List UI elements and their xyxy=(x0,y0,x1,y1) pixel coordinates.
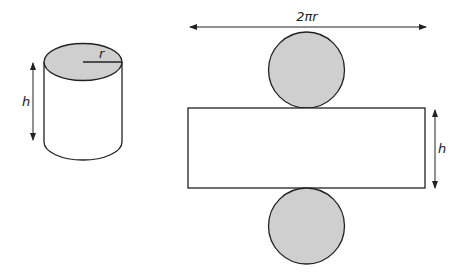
cylinder-net-diagram: r h 2πr h xyxy=(0,0,462,273)
cylinder: r h xyxy=(22,44,122,160)
circumference-label: 2πr xyxy=(296,9,319,24)
net-bottom-circle xyxy=(269,188,345,264)
net-height-label: h xyxy=(438,141,446,156)
cylinder-bottom-edge xyxy=(44,142,122,160)
net: 2πr h xyxy=(188,9,446,264)
cylinder-height-label: h xyxy=(22,94,30,109)
net-rectangle xyxy=(188,108,425,188)
net-top-circle xyxy=(269,32,345,108)
